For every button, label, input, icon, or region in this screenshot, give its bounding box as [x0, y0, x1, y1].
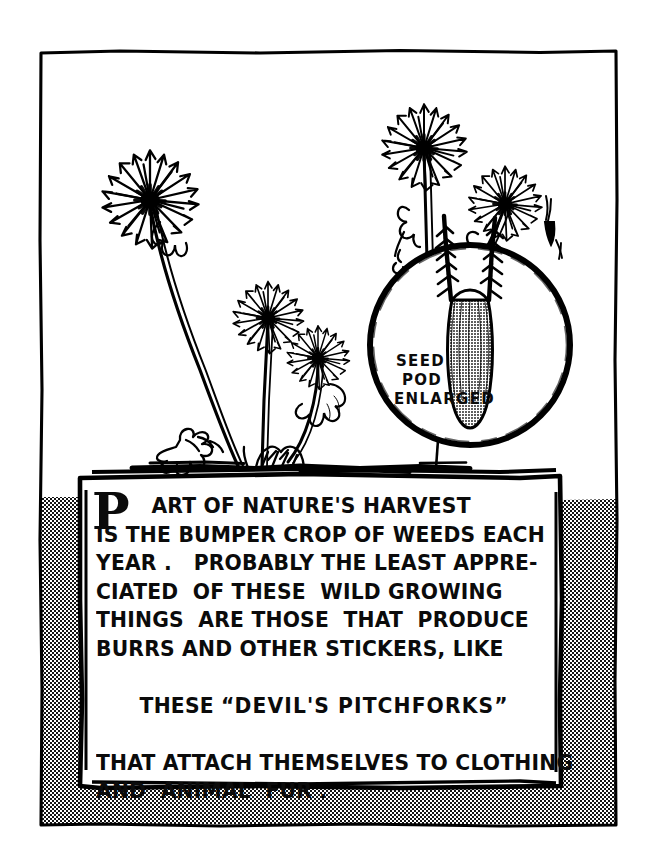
caption-panel — [80, 469, 562, 788]
pen-and-ink-illustration — [0, 0, 651, 862]
detached-seed — [545, 196, 554, 245]
illustration-page: SEED POD ENLARGED P ART OF NATURE'S HARV… — [0, 0, 651, 862]
dandelion-left — [102, 150, 243, 466]
seed-pod-inset — [370, 216, 570, 468]
dandelion-mid — [233, 282, 303, 466]
caption-dropcap: P — [92, 487, 130, 537]
detached-seed — [556, 240, 562, 259]
dandelion-small — [287, 326, 349, 463]
